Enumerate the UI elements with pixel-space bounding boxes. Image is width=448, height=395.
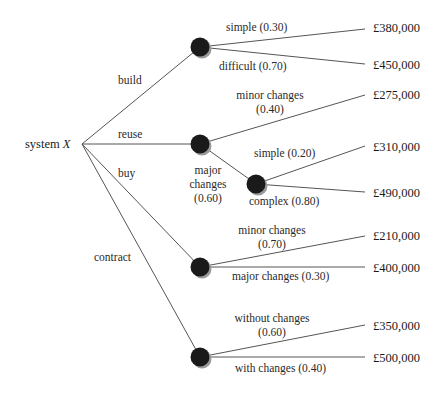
outcome-label-line: (0.40) xyxy=(236,102,303,116)
outcome-label-line: (0.60) xyxy=(189,191,226,205)
edge-buy xyxy=(82,144,200,267)
root-label-text: system xyxy=(25,137,60,151)
outcome-label-line: (0.70) xyxy=(238,237,305,251)
outcome-label-reuse-minor: minor changes (0.40) xyxy=(236,88,303,116)
outcome-label-contract-without: without changes (0.60) xyxy=(234,311,309,339)
outcome-label-line: major xyxy=(189,163,226,177)
outcome-label-buy-minor: minor changes (0.70) xyxy=(238,223,305,251)
outcome-label-line: (0.60) xyxy=(234,325,309,339)
leaf-value: £350,000 xyxy=(373,319,420,333)
outcome-label-line: without changes xyxy=(234,311,309,325)
chance-node-reuse xyxy=(191,135,210,154)
outcome-label-line: minor changes xyxy=(236,88,303,102)
option-label-buy: buy xyxy=(118,166,135,180)
leaf-value: £275,000 xyxy=(373,88,420,102)
outcome-label-major-simple: simple (0.20) xyxy=(254,146,315,160)
outcome-label-contract-with: with changes (0.40) xyxy=(235,361,326,375)
chance-node-major-changes xyxy=(247,175,266,194)
chance-node-build xyxy=(191,38,210,57)
option-label-contract: contract xyxy=(94,250,131,264)
root-label: system X xyxy=(25,137,71,151)
outcome-label-build-difficult: difficult (0.70) xyxy=(219,59,287,73)
leaf-value: £490,000 xyxy=(373,186,420,200)
leaf-value: £310,000 xyxy=(373,140,420,154)
outcome-label-line: minor changes xyxy=(238,223,305,237)
option-label-build: build xyxy=(118,73,142,87)
chance-node-contract xyxy=(191,348,210,367)
option-label-reuse: reuse xyxy=(118,127,142,141)
leaf-value: £400,000 xyxy=(373,261,420,275)
leaf-value: £500,000 xyxy=(373,351,420,365)
chance-node-buy xyxy=(191,258,210,277)
leaf-value: £210,000 xyxy=(373,229,420,243)
outcome-label-line: changes xyxy=(189,177,226,191)
root-label-variable: X xyxy=(63,137,71,151)
leaf-value: £380,000 xyxy=(373,21,420,35)
outcome-label-reuse-major: major changes (0.60) xyxy=(189,163,226,205)
edge-major-complex xyxy=(256,184,365,192)
outcome-label-buy-major: major changes (0.30) xyxy=(232,269,329,283)
leaf-value: £450,000 xyxy=(373,58,420,72)
outcome-label-build-simple: simple (0.30) xyxy=(226,20,287,34)
outcome-label-major-complex: complex (0.80) xyxy=(249,194,319,208)
